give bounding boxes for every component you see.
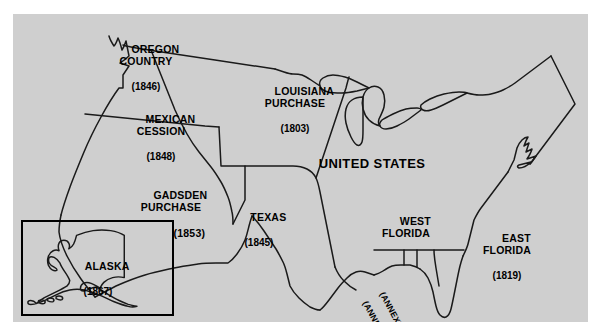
northeast-border (467, 56, 551, 95)
rio-grande-border (252, 216, 320, 310)
aleutian-islands-chain (28, 301, 37, 305)
long-island-outline (518, 162, 532, 168)
gulf-coast-texas (320, 271, 374, 310)
alaska-outline (23, 222, 172, 314)
oregon-cession-divide (85, 114, 219, 127)
aleutian-island-3 (47, 298, 54, 302)
lake-superior-outline (320, 75, 369, 93)
northern-border-midwest (275, 69, 320, 86)
aleutian-island-4 (56, 296, 63, 300)
louisiana-purchase-west-boundary (151, 50, 233, 224)
florida-west-coast (420, 256, 463, 317)
lake-erie-outline (380, 108, 421, 129)
southeast-atlantic-coast (463, 172, 508, 256)
lake-ontario-outline (421, 92, 467, 111)
alaska-mainland-outline (37, 230, 137, 307)
lake-michigan-outline (345, 97, 363, 145)
texas-north-boundary (245, 166, 335, 267)
map-panel: OREGON COUNTRY (1846) MEXICAN CESSION (1… (13, 14, 588, 322)
mid-atlantic-coast (508, 137, 536, 172)
new-england-coast (530, 56, 575, 164)
gulf-coast-louisiana (374, 265, 420, 275)
florida-east-west-divide (434, 250, 439, 286)
historical-map-figure: OREGON COUNTRY (1846) MEXICAN CESSION (1… (0, 0, 605, 332)
west-coast-outline (61, 36, 129, 215)
alaska-inset-box (21, 220, 174, 316)
forty-ninth-parallel (123, 45, 275, 69)
